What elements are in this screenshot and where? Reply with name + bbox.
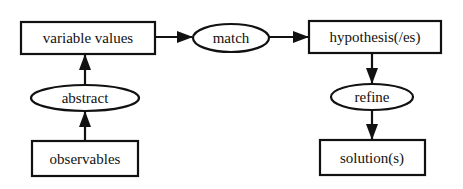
node-label: abstract [62, 90, 109, 106]
node-observables: observables [32, 141, 138, 176]
node-refine: refine [331, 84, 413, 110]
node-label: solution(s) [340, 150, 404, 167]
node-variable-values: variable values [21, 22, 155, 54]
flowchart: variable values match hypothesis(/es) re… [0, 0, 463, 189]
node-label: hypothesis(/es) [330, 29, 421, 46]
node-label: observables [50, 151, 121, 167]
node-solutions: solution(s) [320, 140, 425, 175]
node-label: variable values [43, 30, 134, 46]
node-match: match [193, 24, 269, 52]
node-label: match [213, 30, 250, 46]
node-label: refine [355, 89, 390, 105]
node-hypothesis: hypothesis(/es) [309, 21, 441, 53]
node-abstract: abstract [31, 85, 139, 111]
